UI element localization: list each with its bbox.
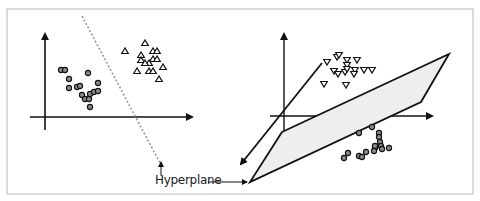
circle-point — [376, 134, 381, 139]
hyperplane-label: Hyperplane — [155, 173, 221, 187]
circle-point — [379, 146, 384, 151]
circle-point — [345, 150, 350, 155]
circle-point — [66, 85, 71, 90]
circle-point — [369, 124, 374, 129]
circle-point — [341, 155, 346, 160]
circle-point — [95, 88, 100, 93]
circle-point — [87, 104, 92, 109]
circle-point — [356, 130, 361, 135]
circle-point — [66, 76, 71, 81]
circle-point — [77, 83, 82, 88]
circle-point — [386, 145, 391, 150]
hyperplane-diagram — [0, 0, 480, 201]
circle-point — [359, 154, 364, 159]
circle-point — [372, 143, 377, 148]
circle-point — [95, 80, 100, 85]
circle-point — [371, 148, 376, 153]
circle-point — [86, 96, 91, 101]
circle-point — [363, 149, 368, 154]
circle-point — [85, 70, 90, 75]
circle-point — [62, 67, 67, 72]
